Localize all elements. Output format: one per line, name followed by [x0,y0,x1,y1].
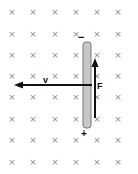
field-cross-icon: × [72,114,80,124]
field-cross-icon: × [114,157,122,167]
magnetic-field-grid: ××××××××××××××××××××××××××××××××××××××××… [8,7,122,167]
field-cross-icon: × [8,157,16,167]
field-cross-icon: × [51,71,59,81]
velocity-arrow [14,82,92,89]
field-cross-icon: × [93,157,101,167]
field-cross-icon: × [51,29,59,39]
field-cross-icon: × [93,7,101,17]
field-cross-icon: × [29,7,37,17]
field-cross-icon: × [29,71,37,81]
field-cross-icon: × [93,29,101,39]
field-cross-icon: × [114,50,122,60]
field-cross-icon: × [72,135,80,145]
field-cross-icon: × [114,29,122,39]
field-cross-icon: × [114,92,122,102]
field-cross-icon: × [72,50,80,60]
field-cross-icon: × [29,92,37,102]
field-cross-icon: × [51,157,59,167]
negative-charge-label: − [78,32,84,43]
positive-charge-label: + [81,129,87,139]
field-cross-icon: × [114,114,122,124]
field-cross-icon: × [8,29,16,39]
field-cross-icon: × [8,92,16,102]
field-cross-icon: × [72,7,80,17]
field-cross-icon: × [29,114,37,124]
field-cross-icon: × [51,7,59,17]
field-cross-icon: × [114,71,122,81]
field-cross-icon: × [29,50,37,60]
force-label: F [97,82,103,91]
field-cross-icon: × [8,7,16,17]
field-cross-icon: × [114,7,122,17]
field-cross-icon: × [114,135,122,145]
field-cross-icon: × [8,50,16,60]
field-cross-icon: × [29,157,37,167]
magnetic-field-diagram: ××××××××××××××××××××××××××××××××××××××××… [0,0,138,174]
field-cross-icon: × [8,71,16,81]
field-cross-icon: × [8,114,16,124]
field-cross-icon: × [72,71,80,81]
field-cross-icon: × [93,135,101,145]
field-cross-icon: × [8,135,16,145]
velocity-label: v [43,76,48,85]
field-cross-icon: × [51,114,59,124]
field-cross-icon: × [93,50,101,60]
field-cross-icon: × [51,135,59,145]
field-cross-icon: × [29,29,37,39]
field-cross-icon: × [72,92,80,102]
field-cross-icon: × [72,157,80,167]
field-cross-icon: × [51,50,59,60]
field-cross-icon: × [51,92,59,102]
field-cross-icon: × [29,135,37,145]
